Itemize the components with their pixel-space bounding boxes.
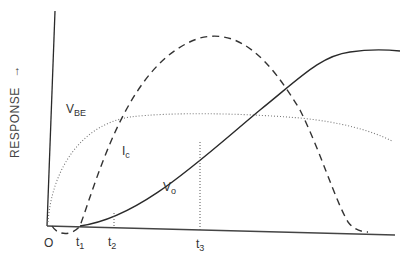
- vo-label: Vo: [163, 181, 176, 193]
- t2-label: t2: [108, 236, 116, 248]
- t1-label: t1: [76, 236, 84, 248]
- arrow-up-icon: →: [8, 65, 22, 78]
- vbe-curve: [48, 114, 392, 222]
- y-axis-label-text: RESPONSE: [8, 87, 22, 158]
- origin-label: O: [44, 237, 53, 249]
- y-axis-label: RESPONSE →: [8, 65, 22, 158]
- t3-label: t3: [196, 238, 204, 250]
- x-axis: [47, 226, 395, 235]
- response-diagram: [0, 0, 417, 273]
- vbe-label: VBE: [66, 103, 86, 115]
- y-axis: [47, 11, 55, 226]
- ic-curve: [52, 36, 368, 233]
- ic-label: Ic: [122, 145, 130, 157]
- vo-curve: [80, 50, 400, 226]
